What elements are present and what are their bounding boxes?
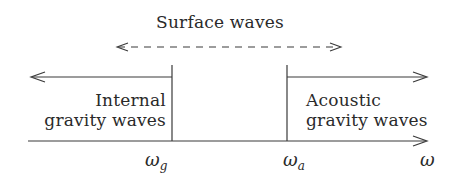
surface-waves-dashed-arrow <box>117 43 341 51</box>
omega-g-subscript: g <box>160 159 168 173</box>
surface-waves-label: Surface waves <box>0 12 440 32</box>
internal-gravity-arrow <box>31 72 172 82</box>
omega-a-tick-label: ωa <box>283 150 305 176</box>
acoustic-label-line1: Acoustic <box>306 90 428 110</box>
omega-axis-label: ω <box>420 150 435 170</box>
frequency-regime-diagram: Surface waves Internal gravity waves Aco… <box>0 0 468 190</box>
omega-a-base: ω <box>283 149 298 170</box>
omega-g-base: ω <box>145 149 160 170</box>
omega-g-tick-label: ωg <box>145 150 167 176</box>
omega-a-subscript: a <box>298 159 305 173</box>
internal-label-line1: Internal <box>44 90 166 110</box>
acoustic-gravity-arrow <box>287 72 427 82</box>
internal-gravity-waves-label: Internal gravity waves <box>44 90 166 130</box>
frequency-axis <box>28 136 427 146</box>
internal-label-line2: gravity waves <box>44 110 166 130</box>
acoustic-gravity-waves-label: Acoustic gravity waves <box>306 90 428 130</box>
acoustic-label-line2: gravity waves <box>306 110 428 130</box>
